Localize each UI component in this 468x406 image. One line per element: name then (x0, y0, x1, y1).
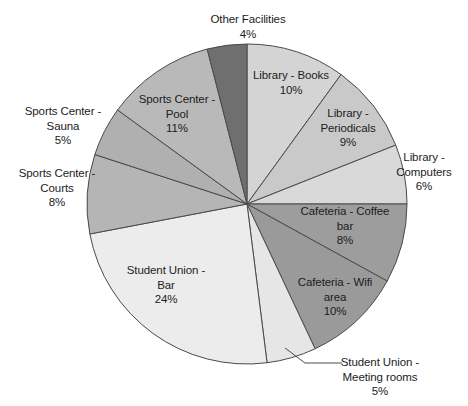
slice-label-value: 8% (2, 195, 112, 210)
slice-label-name: Student Union - (310, 355, 450, 370)
slice-label-value: 10% (232, 83, 350, 98)
slice-label-sports-center-pool: Sports Center - Pool 11% (122, 92, 232, 136)
slice-label-name-2: area (280, 290, 390, 305)
slice-label-value: 4% (168, 27, 328, 42)
slice-label-name-2: Courts (2, 181, 112, 196)
slice-label-name: Cafeteria - Coffee (283, 204, 407, 219)
slice-label-name: Sports Center - (8, 104, 118, 119)
slice-label-library-periodicals: Library - Periodicals 9% (300, 106, 396, 150)
slice-label-value: 10% (280, 304, 390, 319)
slice-label-name-2: Meeting rooms (310, 370, 450, 385)
slice-label-value: 5% (310, 384, 450, 399)
slice-label-value: 24% (104, 292, 228, 307)
slice-label-name-2: Computers (381, 165, 467, 180)
slice-label-name-2: Sauna (8, 119, 118, 134)
slice-label-library-books: Library - Books 10% (232, 68, 350, 97)
slice-label-value: 9% (300, 135, 396, 150)
slice-label-name-2: Pool (122, 107, 232, 122)
pie-chart: Other Facilities 4% Library - Books 10% … (0, 0, 468, 406)
slice-label-value: 5% (8, 133, 118, 148)
slice-label-cafeteria-coffee-bar: Cafeteria - Coffee bar 8% (283, 204, 407, 248)
slice-label-cafeteria-wifi-area: Cafeteria - Wifi area 10% (280, 275, 390, 319)
slice-label-other-facilities: Other Facilities 4% (168, 12, 328, 41)
slice-label-value: 11% (122, 121, 232, 136)
slice-label-sports-center-courts: Sports Center - Courts 8% (2, 166, 112, 210)
slice-label-name-2: Periodicals (300, 121, 396, 136)
slice-label-name-2: bar (283, 219, 407, 234)
slice-label-name: Sports Center - (2, 166, 112, 181)
slice-label-name: Cafeteria - Wifi (280, 275, 390, 290)
slice-label-name: Library - (381, 150, 467, 165)
slice-label-name: Sports Center - (122, 92, 232, 107)
slice-label-name: Library - Books (232, 68, 350, 83)
slice-label-name-2: Bar (104, 278, 228, 293)
slice-label-name: Other Facilities (168, 12, 328, 27)
slice-label-student-union-meeting-rooms: Student Union - Meeting rooms 5% (310, 355, 450, 399)
slice-label-sports-center-sauna: Sports Center - Sauna 5% (8, 104, 118, 148)
slice-label-value: 6% (381, 179, 467, 194)
slice-label-value: 8% (283, 233, 407, 248)
slice-label-name: Library - (300, 106, 396, 121)
slice-label-name: Student Union - (104, 263, 228, 278)
slice-label-library-computers: Library - Computers 6% (381, 150, 467, 194)
slice-label-student-union-bar: Student Union - Bar 24% (104, 263, 228, 307)
